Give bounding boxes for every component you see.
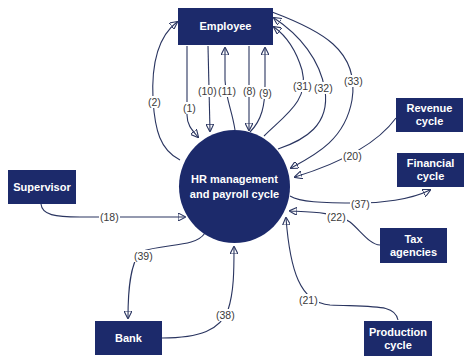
flow-20-line bbox=[295, 118, 396, 177]
entity-bank: Bank bbox=[95, 321, 162, 355]
entity-employee-label: Employee bbox=[200, 20, 252, 33]
entity-production-label-1: Production bbox=[369, 326, 427, 339]
process-label-2: and payroll cycle bbox=[190, 187, 279, 202]
entity-production-label-2: cycle bbox=[384, 339, 412, 352]
flow-label-32: (32) bbox=[313, 82, 334, 94]
context-diagram: Employee Supervisor Bank Revenue cycle F… bbox=[0, 0, 467, 363]
flow-label-37: (37) bbox=[350, 198, 371, 210]
entity-supervisor-label: Supervisor bbox=[13, 181, 70, 194]
flow-label-22: (22) bbox=[326, 211, 347, 223]
flow-label-33: (33) bbox=[343, 75, 364, 87]
entity-revenue-label-1: Revenue bbox=[407, 102, 453, 115]
entity-production-cycle: Production cycle bbox=[364, 321, 432, 356]
entity-financial-label-1: Financial bbox=[407, 157, 455, 170]
entity-revenue-cycle: Revenue cycle bbox=[396, 98, 463, 132]
flow-2-line bbox=[153, 22, 180, 160]
entity-bank-label: Bank bbox=[115, 332, 142, 345]
entity-revenue-label-2: cycle bbox=[416, 115, 444, 128]
flow-label-38: (38) bbox=[215, 309, 236, 321]
flow-39-line bbox=[128, 233, 205, 318]
entity-employee: Employee bbox=[178, 8, 273, 45]
entity-supervisor: Supervisor bbox=[8, 170, 76, 204]
flow-label-10: (10) bbox=[197, 85, 218, 97]
flow-label-9: (9) bbox=[258, 87, 273, 99]
flow-label-31: (31) bbox=[292, 80, 313, 92]
flow-label-39: (39) bbox=[133, 250, 154, 262]
entity-financial-cycle: Financial cycle bbox=[397, 153, 464, 187]
process-label-1: HR management bbox=[191, 172, 278, 187]
flow-label-18: (18) bbox=[99, 211, 120, 223]
entity-financial-label-2: cycle bbox=[417, 170, 445, 183]
flow-label-20: (20) bbox=[342, 150, 363, 162]
flow-label-1: (1) bbox=[182, 102, 197, 114]
flow-label-8: (8) bbox=[242, 85, 257, 97]
flow-38-line bbox=[162, 247, 234, 338]
entity-tax-label: Tax agencies bbox=[380, 233, 447, 259]
flow-label-11: (11) bbox=[217, 85, 237, 97]
flow-label-2: (2) bbox=[147, 96, 162, 108]
flow-label-21: (21) bbox=[298, 294, 319, 306]
process-hr-payroll-cycle: HR management and payroll cycle bbox=[179, 130, 290, 243]
entity-tax-agencies: Tax agencies bbox=[380, 228, 447, 263]
